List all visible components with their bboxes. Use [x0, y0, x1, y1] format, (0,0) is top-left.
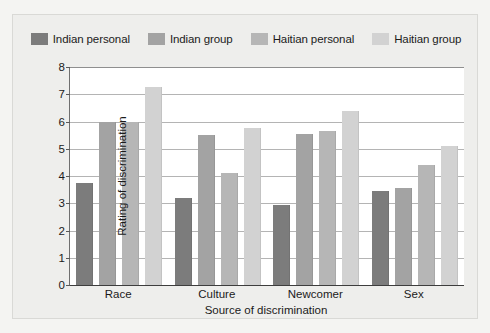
bar: [175, 198, 192, 285]
legend-swatch-indian-group: [148, 33, 165, 45]
bar-group: [366, 67, 465, 285]
chart-card: Indian personal Indian group Haitian per…: [12, 14, 478, 319]
x-axis-title: Source of discrimination: [69, 304, 463, 316]
x-axis-labels: RaceCultureNewcomerSex: [69, 288, 463, 300]
legend-item-indian-personal: Indian personal: [31, 33, 130, 45]
y-axis-tick-label: 0: [59, 279, 65, 291]
bar: [145, 87, 162, 285]
bar: [99, 122, 116, 286]
x-axis-tick-label: Newcomer: [266, 288, 365, 300]
y-axis-tick-label: 5: [59, 143, 65, 155]
legend-swatch-indian-personal: [31, 33, 48, 45]
figure: Indian personal Indian group Haitian per…: [0, 0, 490, 333]
legend-label-indian-group: Indian group: [170, 33, 233, 45]
legend-swatch-haitian-personal: [251, 33, 268, 45]
bar: [418, 165, 435, 285]
legend-label-haitian-personal: Haitian personal: [273, 33, 355, 45]
bar: [395, 188, 412, 285]
bar: [319, 131, 336, 285]
y-axis-tick-label: 6: [59, 116, 65, 128]
bar: [342, 111, 359, 285]
bar: [273, 205, 290, 285]
bar: [372, 191, 389, 285]
bar: [198, 135, 215, 285]
bars-layer: [70, 67, 464, 285]
bar-group: [169, 67, 268, 285]
bar: [221, 173, 238, 285]
bar: [441, 146, 458, 285]
y-axis-tick-mark: [66, 285, 70, 286]
x-axis-tick-label: Race: [69, 288, 168, 300]
bar-group: [267, 67, 366, 285]
legend-item-indian-group: Indian group: [148, 33, 233, 45]
plot-area: 876543210 Rating of discrimination: [69, 67, 464, 286]
x-axis-tick-label: Sex: [365, 288, 464, 300]
x-axis-tick-label: Culture: [168, 288, 267, 300]
y-axis-tick-label: 1: [59, 252, 65, 264]
bar: [296, 134, 313, 285]
legend-item-haitian-personal: Haitian personal: [251, 33, 355, 45]
legend-label-indian-personal: Indian personal: [53, 33, 130, 45]
y-axis-tick-label: 7: [59, 88, 65, 100]
y-axis-tick-label: 8: [59, 61, 65, 73]
y-axis-title: Rating of discrimination: [116, 76, 128, 276]
y-axis-tick-label: 2: [59, 225, 65, 237]
legend-swatch-haitian-group: [372, 33, 389, 45]
bar: [244, 128, 261, 285]
y-axis-tick-label: 3: [59, 197, 65, 209]
legend-label-haitian-group: Haitian group: [394, 33, 461, 45]
legend-item-haitian-group: Haitian group: [372, 33, 461, 45]
y-axis-tick-label: 4: [59, 170, 65, 182]
chart-legend: Indian personal Indian group Haitian per…: [13, 29, 479, 49]
bar: [76, 183, 93, 285]
